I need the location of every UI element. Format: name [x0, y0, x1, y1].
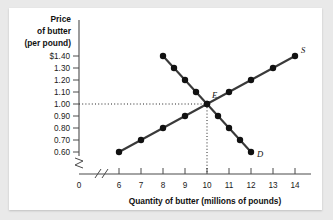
x-tick-label: 9 — [183, 181, 188, 190]
demand-point — [215, 113, 221, 119]
x-tick-label: 11 — [225, 181, 234, 190]
demand-point — [160, 53, 166, 59]
y-axis-title-line3: (per pound) — [24, 38, 71, 48]
supply-curve-label: S — [301, 45, 306, 55]
x-tick-label: 12 — [246, 181, 256, 190]
supply-point — [160, 125, 166, 131]
y-tick-label: 1.30 — [54, 64, 70, 73]
y-tick-label: 0.90 — [54, 112, 70, 121]
demand-point — [237, 137, 243, 143]
supply-point — [116, 149, 122, 155]
y-tick-label: 1.00 — [54, 100, 70, 109]
y-axis-break-mark — [75, 158, 83, 168]
demand-point — [204, 101, 210, 107]
y-axis-ticks — [73, 56, 79, 152]
x-tick-label: 8 — [161, 181, 166, 190]
x-tick-label: 6 — [117, 181, 122, 190]
y-tick-label: 0.70 — [54, 136, 70, 145]
x-tick-label: 7 — [139, 181, 144, 190]
y-tick-label: 0.80 — [54, 124, 70, 133]
y-axis-title-line1: Price — [51, 14, 72, 24]
origin-label: 0 — [77, 181, 82, 190]
supply-demand-chart: Price of butter (per pound) $1.40 1.30 1… — [9, 8, 322, 210]
demand-point — [182, 77, 188, 83]
supply-point — [248, 77, 254, 83]
supply-point — [182, 113, 188, 119]
y-tick-label: 0.60 — [54, 148, 70, 157]
supply-point — [138, 137, 144, 143]
x-axis-tick-labels: 6 7 8 9 10 11 12 13 14 — [117, 181, 300, 190]
equilibrium-label: E — [211, 90, 218, 100]
demand-curve-label: D — [256, 149, 264, 159]
x-axis-title: Quantity of butter (millions of pounds) — [129, 196, 282, 206]
supply-point — [270, 65, 276, 71]
demand-point — [193, 89, 199, 95]
demand-point — [171, 65, 177, 71]
x-tick-label: 14 — [290, 181, 300, 190]
y-tick-label: 1.10 — [54, 88, 70, 97]
figure-panel: Price of butter (per pound) $1.40 1.30 1… — [9, 8, 322, 210]
demand-point — [226, 125, 232, 131]
supply-point — [292, 53, 298, 59]
supply-point — [226, 89, 232, 95]
demand-point — [248, 149, 254, 155]
x-tick-label: 10 — [202, 181, 212, 190]
y-tick-label: $1.40 — [50, 52, 71, 61]
x-tick-label: 13 — [268, 181, 278, 190]
y-axis-tick-labels: $1.40 1.30 1.20 1.10 1.00 0.90 0.80 0.70… — [50, 52, 71, 157]
y-axis-title-line2: of butter — [37, 26, 72, 36]
y-tick-label: 1.20 — [54, 76, 70, 85]
